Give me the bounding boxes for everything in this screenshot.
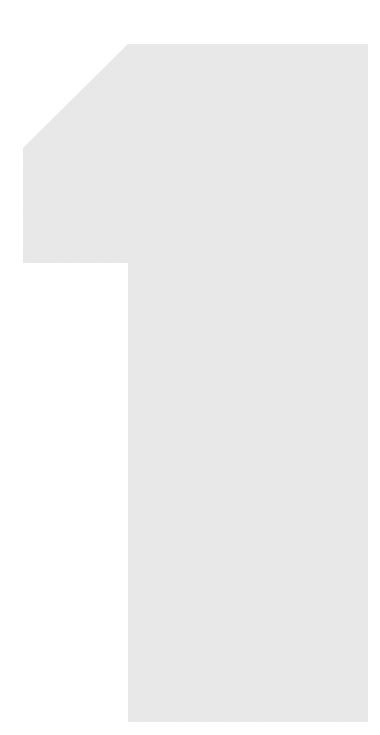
numeral-one-polygon [23,44,368,722]
numeral-one-shape [0,0,380,735]
